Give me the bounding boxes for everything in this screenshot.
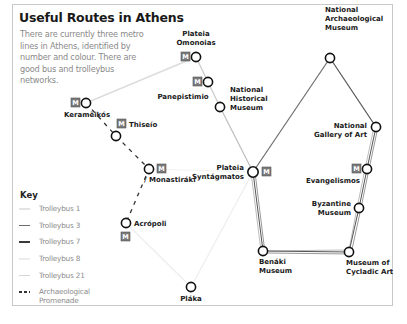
key-item-trolleybus-8: Trolleybus 8 [19,254,99,271]
metro-icon: M [157,164,166,173]
label-byzantine-2: Museum [318,209,351,217]
label-syntagmatos-2: Syntágmatos [192,173,244,181]
svg-text:M: M [353,165,359,173]
station-syntagmatos[interactable] [248,167,258,177]
label-historical-2: Historical [230,95,268,103]
label-thiseio: Thiseío [129,121,157,129]
key-label: Trolleybus 3 [39,221,80,230]
label-cycladic-2: Cycladic Art [346,268,394,276]
svg-text:M: M [122,233,128,241]
svg-text:M: M [182,53,188,61]
route-acropoli-plaka [126,223,191,287]
metro-icon: M [121,232,130,241]
label-gallery-2: Gallery of Art [314,131,368,139]
label-monastiraki: / Monastiráki [144,176,196,184]
station-benaki[interactable] [258,246,267,255]
station-labels: Plateia Omonoias Panepistimio National H… [64,6,394,303]
label-omonoias-2: Omonoias [176,39,215,47]
route-syntagmatos-archaeological [253,58,330,172]
key-label: Trolleybus 1 [39,204,80,213]
svg-text:M: M [263,168,269,176]
label-archaeological-1: National [325,6,358,14]
route-historical-syntagmatos [220,107,253,172]
label-historical-1: National [230,86,263,94]
label-evangelismos: Evangelismos [306,177,360,185]
label-syntagmatos-1: Plateia [217,164,245,172]
metro-icon: M [117,119,126,128]
metro-icon: M [262,167,271,176]
key-item-trolleybus-1: Trolleybus 1 [19,204,99,221]
key-title: Key [20,190,38,200]
label-benaki-1: Benáki [259,258,286,266]
station-acropoli[interactable] [121,218,130,227]
route-archaeological-gallery [330,58,376,127]
line-swatch-icon [19,271,30,279]
route-plaka-syntagmatos [191,172,253,287]
line-swatch-icon [19,204,30,212]
metro-icon: M [181,52,190,61]
label-byzantine-1: Byzantine [312,200,351,208]
label-panepistimio: Panepistimio [157,93,208,101]
key-item-promenade: Archaeological Promenade [19,287,99,305]
station-byzantine[interactable] [354,203,363,212]
station-cycladic[interactable] [344,247,353,256]
station-evangelismos[interactable] [362,164,371,173]
label-gallery-1: National [334,122,367,130]
metro-icon: M [71,98,80,107]
station-gallery[interactable] [371,122,380,131]
svg-text:M: M [158,165,164,173]
label-archaeological-2: Archaeological [325,15,383,23]
key-label: Trolleybus 21 [39,271,85,280]
key-label: Trolleybus 7 [39,237,80,246]
key-item-trolleybus-3: Trolleybus 3 [19,221,99,238]
key-item-trolleybus-7: Trolleybus 7 [19,237,99,254]
svg-text:M: M [194,78,200,86]
station-kerameikos[interactable] [81,98,90,107]
line-swatch-icon [19,237,30,245]
label-omonoias-1: Plateia [182,30,210,38]
metro-icon: M [193,77,202,86]
label-cycladic-1: Museum of [346,259,390,267]
station-plaka[interactable] [186,282,195,291]
line-swatch-icon [19,221,30,229]
label-plaka: Pláka [180,295,202,303]
station-thiseio[interactable] [111,131,120,140]
station-monastiraki[interactable] [144,164,153,173]
station-archaeological[interactable] [325,53,334,62]
label-historical-3: Museum [230,104,263,112]
label-acropoli: Acrópoli [134,220,166,228]
key-label: Trolleybus 8 [39,254,80,263]
key-item-trolleybus-21: Trolleybus 21 [19,271,99,288]
station-historical[interactable] [215,102,224,111]
line-swatch-icon [19,254,30,262]
label-kerameikos: Keramëikós [64,111,110,119]
map-key: Trolleybus 1 Trolleybus 3 Trolleybus 7 T… [19,204,99,305]
metro-icon: M [352,164,361,173]
label-benaki-2: Museum [259,267,292,275]
svg-text:M: M [72,99,78,107]
station-panepistimio[interactable] [203,77,212,86]
svg-text:M: M [118,120,124,128]
station-omonoias[interactable] [191,52,200,61]
label-archaeological-3: Museum [325,24,358,32]
key-label: Archaeological Promenade [39,287,99,305]
dashed-line-icon [19,287,30,295]
